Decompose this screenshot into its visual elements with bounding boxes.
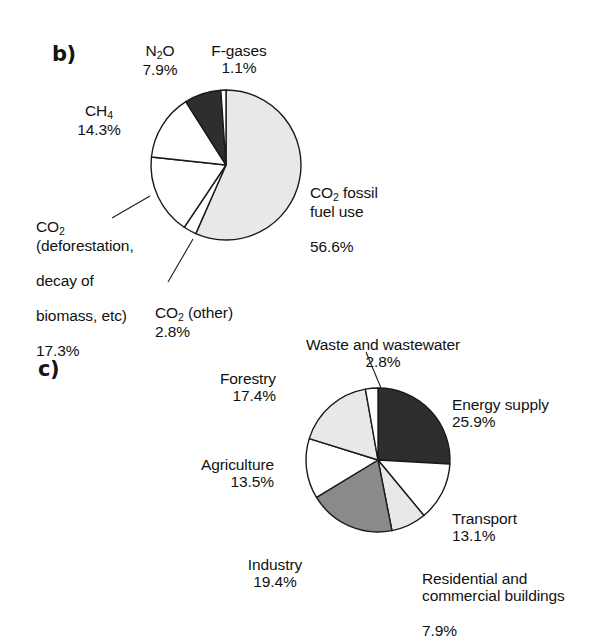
label-waste-name: Waste and wastewater [306,336,460,353]
label-energy-supply: Energy supply 25.9% [452,378,602,448]
label-energy-supply-name: Energy supply [452,396,549,413]
pie-b-slices [151,90,301,240]
label-co2-fossil-pct: 56.6% [310,238,450,256]
label-agriculture: Agriculture 13.5% [150,438,274,508]
label-residential-pct: 7.9% [422,622,614,640]
label-residential-l1: Residential and [422,570,527,587]
label-co2-fossil-fuel-use: CO2 fossil fuel use 56.6% [310,166,450,273]
label-forestry-pct: 17.4% [180,387,276,405]
label-transport-name: Transport [452,510,517,527]
label-n2o-pct: 7.9% [118,61,202,79]
label-waste-pct: 2.8% [278,353,488,371]
label-residential-l2: commercial buildings [422,587,614,605]
label-f-gases-name: F-gases [211,42,266,59]
label-ch4-name: CH4 [85,102,113,119]
label-agriculture-pct: 13.5% [150,473,274,491]
pie-slice-energy-supply [378,388,450,464]
label-industry-name: Industry [248,556,302,573]
label-agriculture-name: Agriculture [201,456,274,473]
label-forestry: Forestry 17.4% [180,352,276,422]
label-co2-deforestation-name: CO2 [36,218,65,235]
leader-line-co2-other [168,239,193,282]
label-co2-fossil-l2: fuel use [310,203,450,221]
label-f-gases-pct: 1.1% [196,59,282,77]
label-co2-deforestation-l2: (deforestation, [36,237,166,255]
label-residential-commercial-buildings: Residential and commercial buildings 7.9… [422,552,614,640]
label-co2-fossil-name: CO2 fossil [310,184,378,201]
pie-c-slices [306,388,450,532]
label-ch4-pct: 14.3% [56,121,142,139]
label-energy-supply-pct: 25.9% [452,413,602,431]
label-industry: Industry 19.4% [222,538,328,608]
label-n2o-name: N2O [146,42,175,59]
label-f-gases: F-gases 1.1% [196,24,282,94]
label-ch4: CH4 14.3% [56,84,142,156]
label-forestry-name: Forestry [220,370,276,387]
label-industry-pct: 19.4% [222,573,328,591]
label-transport-pct: 13.1% [452,527,582,545]
label-co2-deforestation-l3: decay of [36,272,166,290]
